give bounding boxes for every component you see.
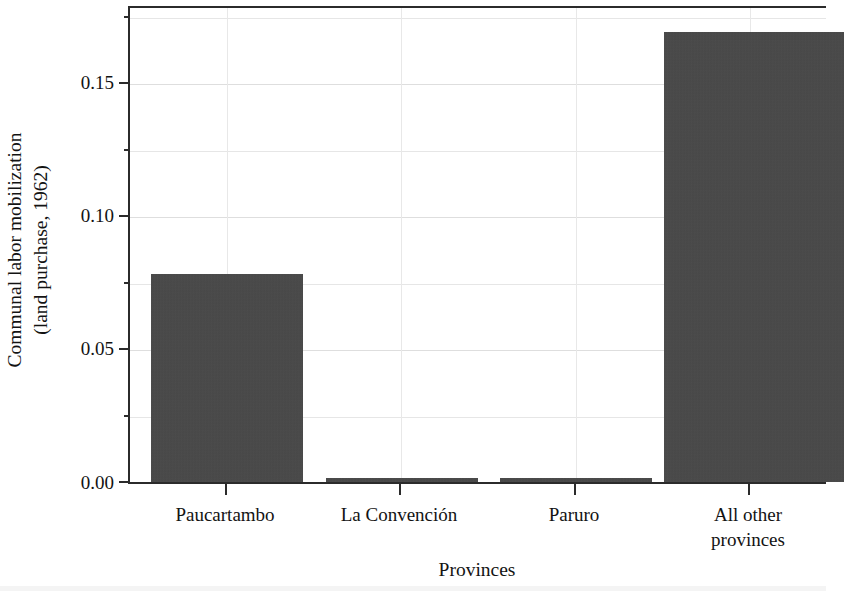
x-tick-3 [748, 484, 750, 495]
y-tick-label-0: 0.00 [52, 473, 114, 492]
gridline-vertical-2 [576, 8, 577, 482]
x-tick-1 [399, 484, 401, 495]
x-tick-label-paucartambo-line1: Paucartambo [175, 504, 274, 525]
bar-paucartambo [151, 274, 303, 482]
y-axis-title-line1: Communal labor mobilization [2, 132, 28, 367]
x-axis-title: Provinces [128, 558, 826, 582]
x-tick-label-la-convencion: La Convención [341, 502, 458, 527]
y-tick-label-3: 0.15 [52, 73, 114, 92]
y-tick-label-2: 0.10 [52, 206, 114, 225]
y-tick-label-1: 0.05 [52, 339, 114, 358]
gridline-horizontal-0175 [130, 18, 826, 19]
x-tick-label-paruro: Paruro [549, 502, 600, 527]
x-tick-label-all-other-provinces-line1: All other [714, 504, 782, 525]
scan-artifact-band [0, 586, 826, 591]
x-tick-label-all-other-provinces: All other provinces [711, 502, 785, 552]
x-tick-label-la-convencion-line1: La Convención [341, 504, 458, 525]
x-tick-label-paruro-line1: Paruro [549, 504, 600, 525]
gridline-vertical-1 [401, 8, 402, 482]
x-tick-2 [574, 484, 576, 495]
x-axis-tick-labels: Paucartambo La Convención Paruro All oth… [128, 502, 826, 562]
y-axis-tick-labels: 0.00 0.05 0.10 0.15 [52, 0, 114, 591]
x-tick-label-all-other-provinces-line2: provinces [711, 527, 785, 552]
x-tick-0 [225, 484, 227, 495]
bar-all-other-provinces [664, 32, 844, 482]
y-axis-title-line2: (land purchase, 1962) [28, 132, 54, 367]
y-axis-title: Communal labor mobilization (land purcha… [0, 0, 56, 500]
x-axis-ticks [128, 484, 826, 496]
x-tick-label-paucartambo: Paucartambo [175, 502, 274, 527]
plot-area [128, 6, 826, 482]
